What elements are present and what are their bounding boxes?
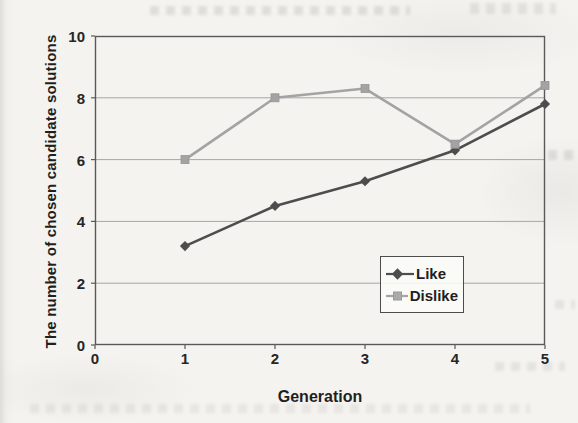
x-tick-label: 4 [451, 350, 459, 367]
y-tick-label: 6 [43, 151, 85, 168]
marker-square [361, 85, 369, 93]
marker-diamond [270, 201, 280, 211]
x-tick-label: 0 [91, 350, 99, 367]
x-tick-label: 2 [271, 350, 279, 367]
y-tick-label: 10 [43, 28, 85, 45]
y-tick-label: 4 [43, 213, 85, 230]
y-tick-label: 2 [43, 275, 85, 292]
scan-bleedthrough-artifact [150, 6, 410, 15]
y-tick-label: 0 [43, 337, 85, 354]
legend-entry-like: Like [386, 266, 458, 281]
x-axis-title: Generation [95, 388, 545, 406]
scan-bleedthrough-artifact [495, 362, 565, 371]
dislike-line-swatch-icon [386, 290, 408, 302]
y-axis-title: The number of chosen candidate solutions [38, 26, 64, 356]
x-tick-label: 5 [541, 350, 549, 367]
scan-bleedthrough-artifact [555, 300, 575, 309]
scanned-figure-page: The number of chosen candidate solutions… [0, 0, 578, 423]
series-line-like [185, 104, 545, 246]
marker-square [181, 156, 189, 164]
marker-diamond [180, 241, 190, 251]
y-tick-label: 8 [43, 89, 85, 106]
series-line-dislike [185, 85, 545, 159]
legend-entry-dislike: Dislike [386, 288, 458, 303]
chart-legend: Like Dislike [380, 256, 464, 313]
y-axis-title-text: The number of chosen candidate solutions [43, 34, 60, 348]
plot-area: The number of chosen candidate solutions… [95, 36, 545, 345]
scan-bleedthrough-artifact [548, 150, 574, 160]
scan-bleedthrough-artifact [470, 3, 556, 14]
x-tick-label: 1 [181, 350, 189, 367]
marker-square [541, 81, 549, 89]
marker-diamond [360, 176, 370, 186]
marker-square [271, 94, 279, 102]
like-line-swatch-icon [386, 268, 414, 280]
chart-svg [95, 36, 545, 345]
legend-label-like: Like [416, 266, 446, 281]
marker-diamond [540, 99, 550, 109]
marker-square [451, 140, 459, 148]
x-tick-label: 3 [361, 350, 369, 367]
plot-border [96, 37, 545, 345]
legend-label-dislike: Dislike [410, 288, 458, 303]
